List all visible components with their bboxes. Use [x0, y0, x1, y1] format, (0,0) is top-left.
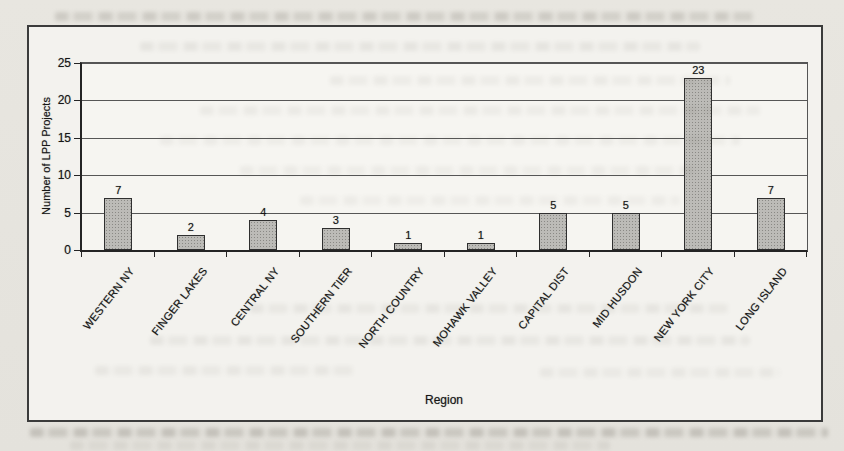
bar-value-label: 4	[243, 206, 283, 218]
bar-value-label: 7	[751, 184, 791, 196]
bar	[249, 220, 277, 250]
y-axis-tick	[74, 138, 80, 139]
y-axis-tick-label: 0	[41, 243, 71, 257]
y-axis-tick	[74, 100, 80, 101]
bleedthrough-text-row	[540, 368, 780, 377]
x-axis-tick	[299, 252, 300, 257]
y-axis-tick	[74, 63, 80, 64]
y-axis-tick	[74, 175, 80, 176]
bleedthrough-text-row	[240, 166, 700, 175]
bar-value-label: 1	[388, 229, 428, 241]
bleedthrough-text-row	[160, 136, 740, 145]
y-axis-tick	[74, 213, 80, 214]
bleedthrough-text-row	[300, 196, 680, 205]
x-axis-tick	[806, 252, 807, 257]
x-axis-tick	[516, 252, 517, 257]
bar	[612, 213, 640, 250]
bleedthrough-text-row	[150, 336, 750, 345]
x-axis-tick	[154, 252, 155, 257]
bar	[104, 198, 132, 250]
x-axis-title: Region	[344, 393, 544, 407]
y-axis-tick-label: 25	[41, 56, 71, 70]
x-axis-tick	[734, 252, 735, 257]
bar-value-label: 7	[98, 184, 138, 196]
bleedthrough-text-row	[55, 12, 755, 21]
bar-value-label: 23	[678, 64, 718, 76]
bleedthrough-text-row	[250, 304, 730, 313]
x-axis-tick	[81, 252, 82, 257]
bar	[539, 213, 567, 250]
bar	[757, 198, 785, 250]
bar	[177, 235, 205, 250]
bar-value-label: 3	[316, 214, 356, 226]
bleedthrough-text-row	[95, 366, 355, 375]
bleedthrough-text-row	[140, 42, 700, 51]
x-axis-tick	[444, 252, 445, 257]
x-axis-tick	[226, 252, 227, 257]
bar-value-label: 2	[171, 221, 211, 233]
bar	[322, 228, 350, 250]
bleedthrough-text-row	[330, 76, 730, 85]
plot-area: 72431155237	[80, 62, 808, 252]
y-axis-tick-label: 20	[41, 93, 71, 107]
x-axis-tick	[661, 252, 662, 257]
bar	[467, 243, 495, 250]
bar-value-label: 1	[461, 229, 501, 241]
bar	[394, 243, 422, 250]
bleedthrough-text-row	[200, 106, 760, 115]
scanned-document-page: Number of LPP Projects 72431155237 Regio…	[0, 0, 844, 451]
y-axis-title: Number of LPP Projects	[40, 97, 52, 215]
y-axis-tick-label: 15	[41, 131, 71, 145]
bleedthrough-text-row	[70, 441, 610, 450]
bleedthrough-text-row	[30, 428, 828, 437]
x-axis-tick	[371, 252, 372, 257]
bar	[684, 78, 712, 250]
y-axis-tick-label: 5	[41, 206, 71, 220]
x-axis-tick	[589, 252, 590, 257]
y-axis-tick	[74, 250, 80, 251]
y-axis-tick-label: 10	[41, 168, 71, 182]
